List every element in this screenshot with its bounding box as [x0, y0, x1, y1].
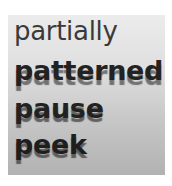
word-partially: partially: [14, 16, 118, 46]
word-peek: peek: [14, 129, 87, 160]
word-patterned: patterned: [14, 55, 163, 86]
word-pause: pause: [14, 93, 104, 124]
text-photo: partially patterned pause peek: [8, 15, 165, 175]
